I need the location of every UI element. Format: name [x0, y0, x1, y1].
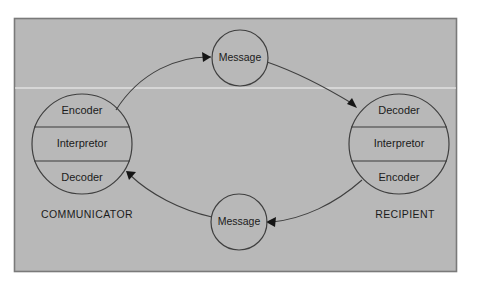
message-bottom-label: Message: [218, 215, 261, 227]
communicator-caption: COMMUNICATOR: [41, 208, 133, 220]
message-top-label: Message: [219, 51, 262, 63]
communication-model-figure: Encoder Interpretor Decoder COMMUNICATOR…: [0, 0, 477, 289]
recipient-segment-encoder: Encoder: [379, 171, 420, 183]
recipient-segment-decoder: Decoder: [378, 104, 420, 116]
recipient-caption: RECIPIENT: [375, 208, 435, 220]
communicator-segment-encoder: Encoder: [62, 104, 103, 116]
communicator-segment-interpretor: Interpretor: [57, 137, 108, 149]
communicator-segment-decoder: Decoder: [61, 171, 103, 183]
recipient-segment-interpretor: Interpretor: [374, 137, 425, 149]
